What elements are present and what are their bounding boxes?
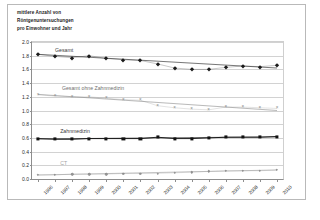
data-point-gesamt-ohne-zahnmedizin: × xyxy=(241,105,244,108)
data-point-gesamt-ohne-zahnmedizin: × xyxy=(36,93,39,96)
x-axis-tick-mark xyxy=(175,179,176,182)
data-point-zahnmedizin xyxy=(207,136,210,139)
y-axis-tick-label: 0.4 xyxy=(15,149,29,155)
series-label-ct: CT xyxy=(60,160,67,166)
chart-title-line-1: mittlere Anzahl von xyxy=(17,9,167,17)
data-point-zahnmedizin xyxy=(53,138,56,141)
data-point-zahnmedizin xyxy=(156,136,159,139)
x-axis-tick-mark xyxy=(260,179,261,182)
chart-figure: mittlere Anzahl von Röntgenuntersuchunge… xyxy=(0,0,320,220)
data-point-zahnmedizin xyxy=(275,135,278,138)
y-axis-tick-label: 1.0 xyxy=(15,108,29,114)
data-point-gesamt-ohne-zahnmedizin: × xyxy=(53,94,56,97)
data-point-zahnmedizin xyxy=(173,137,176,140)
x-axis-tick-mark xyxy=(123,179,124,182)
y-axis-tick-label: 1.2 xyxy=(15,94,29,100)
chart-title: mittlere Anzahl von Röntgenuntersuchunge… xyxy=(17,9,167,33)
y-axis-tick-label: 2.0 xyxy=(15,39,29,45)
x-axis-tick-mark xyxy=(38,179,39,182)
x-axis-tick-mark xyxy=(226,179,227,182)
data-point-gesamt-ohne-zahnmedizin: × xyxy=(105,96,108,99)
y-axis-tick-label: 0.2 xyxy=(15,162,29,168)
data-point-gesamt-ohne-zahnmedizin: × xyxy=(275,107,278,110)
chart-title-line-2: Röntgenuntersuchungen xyxy=(17,17,167,25)
data-point-gesamt-ohne-zahnmedizin: × xyxy=(122,98,125,101)
data-point-gesamt-ohne-zahnmedizin: × xyxy=(190,107,193,110)
y-axis-tick-label: 0.8 xyxy=(15,121,29,127)
x-axis-tick-mark xyxy=(106,179,107,182)
x-axis-tick-mark xyxy=(140,179,141,182)
y-axis-tick-label: 0.0 xyxy=(15,176,29,182)
y-axis-tick-label: 0.6 xyxy=(15,135,29,141)
y-axis-tick-label: 1.4 xyxy=(15,80,29,86)
data-point-gesamt-ohne-zahnmedizin: × xyxy=(156,104,159,107)
data-point-gesamt-ohne-zahnmedizin: × xyxy=(173,106,176,109)
plot-area: 0.00.20.40.60.81.01.21.41.61.82.0 199619… xyxy=(31,41,284,180)
data-point-gesamt-ohne-zahnmedizin: × xyxy=(139,99,142,102)
data-point-zahnmedizin xyxy=(241,136,244,139)
y-axis-tick-label: 1.8 xyxy=(15,53,29,59)
data-point-zahnmedizin xyxy=(36,137,39,140)
data-point-zahnmedizin xyxy=(88,137,91,140)
data-point-zahnmedizin xyxy=(224,136,227,139)
data-point-zahnmedizin xyxy=(258,136,261,139)
x-axis-tick-mark xyxy=(89,179,90,182)
x-axis-tick-mark xyxy=(158,179,159,182)
x-axis-tick-mark xyxy=(55,179,56,182)
x-axis-tick-mark xyxy=(209,179,210,182)
data-point-gesamt-ohne-zahnmedizin: × xyxy=(258,106,261,109)
data-point-zahnmedizin xyxy=(122,137,125,140)
data-point-zahnmedizin xyxy=(105,137,108,140)
data-point-gesamt-ohne-zahnmedizin: × xyxy=(224,105,227,108)
x-axis-tick-mark xyxy=(277,179,278,182)
data-point-zahnmedizin xyxy=(190,137,193,140)
chart-title-line-3: pro Einwohner und Jahr xyxy=(17,25,167,33)
data-point-gesamt-ohne-zahnmedizin: × xyxy=(70,95,73,98)
y-axis-tick-mark xyxy=(30,179,32,180)
series-label-gesamt-ohne-zahnmedizin: Gesamt ohne Zahnmedizin xyxy=(62,85,124,91)
series-label-gesamt: Gesamt xyxy=(55,47,73,53)
x-axis-tick-mark xyxy=(192,179,193,182)
data-point-zahnmedizin xyxy=(139,137,142,140)
x-axis-tick-mark xyxy=(72,179,73,182)
y-axis-tick-label: 1.6 xyxy=(15,66,29,72)
data-point-gesamt-ohne-zahnmedizin: × xyxy=(88,95,91,98)
series-label-zahnmedizin: Zahnmedizin xyxy=(60,128,90,134)
data-point-gesamt-ohne-zahnmedizin: × xyxy=(207,108,210,111)
x-axis-tick-mark xyxy=(243,179,244,182)
data-point-zahnmedizin xyxy=(71,138,74,141)
